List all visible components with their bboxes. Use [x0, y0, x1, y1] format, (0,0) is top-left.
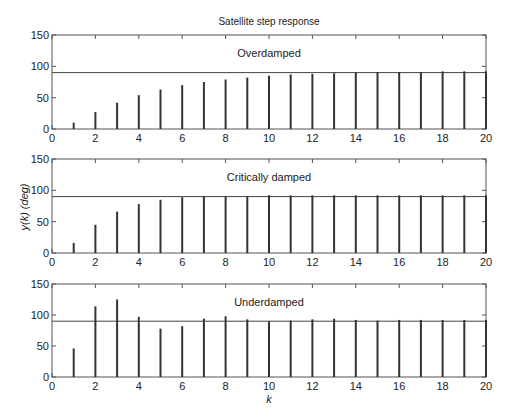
y-tick-label: 150: [31, 29, 49, 41]
x-tick-label: 10: [263, 380, 275, 392]
x-tick-label: 0: [49, 380, 55, 392]
x-tick-label: 16: [393, 380, 405, 392]
x-tick-label: 4: [136, 132, 142, 144]
y-tick-label: 100: [31, 309, 49, 321]
x-tick-label: 6: [179, 380, 185, 392]
x-tick-label: 18: [436, 132, 448, 144]
y-tick-label: 50: [37, 92, 49, 104]
x-tick-label: 6: [179, 256, 185, 268]
x-tick-label: 18: [436, 380, 448, 392]
x-tick-label: 10: [263, 256, 275, 268]
y-tick-label: 150: [31, 278, 49, 290]
panel-overdamped: 02468101214161820050100150Overdamped: [31, 29, 492, 144]
x-tick-label: 14: [350, 256, 362, 268]
y-tick-label: 100: [31, 184, 49, 196]
x-tick-label: 10: [263, 132, 275, 144]
x-tick-label: 12: [306, 132, 318, 144]
x-tick-label: 20: [480, 380, 492, 392]
panel-critically-damped: 02468101214161820050100150Critically dam…: [31, 153, 492, 268]
x-tick-label: 16: [393, 256, 405, 268]
x-tick-label: 12: [306, 256, 318, 268]
y-tick-label: 50: [37, 340, 49, 352]
x-tick-label: 8: [223, 256, 229, 268]
x-axis-label: k: [266, 393, 272, 405]
x-tick-label: 0: [49, 132, 55, 144]
y-tick-label: 100: [31, 60, 49, 72]
x-tick-label: 12: [306, 380, 318, 392]
x-tick-label: 0: [49, 256, 55, 268]
x-tick-label: 2: [92, 256, 98, 268]
x-tick-label: 4: [136, 256, 142, 268]
x-tick-label: 20: [480, 132, 492, 144]
chart-title: Satellite step response: [218, 16, 320, 27]
x-tick-label: 18: [436, 256, 448, 268]
panel-underdamped: 02468101214161820050100150Underdamped: [31, 278, 492, 392]
x-tick-label: 2: [92, 380, 98, 392]
panel-subtitle: Underdamped: [234, 296, 304, 308]
x-tick-label: 4: [136, 380, 142, 392]
x-tick-label: 8: [223, 380, 229, 392]
panel-subtitle: Critically damped: [227, 171, 311, 183]
y-tick-label: 0: [43, 371, 49, 383]
y-tick-label: 150: [31, 153, 49, 165]
x-tick-label: 14: [350, 380, 362, 392]
y-tick-label: 0: [43, 123, 49, 135]
x-tick-label: 14: [350, 132, 362, 144]
x-tick-label: 20: [480, 256, 492, 268]
x-tick-label: 2: [92, 132, 98, 144]
panel-subtitle: Overdamped: [237, 47, 301, 59]
y-tick-label: 50: [37, 216, 49, 228]
x-tick-label: 6: [179, 132, 185, 144]
y-tick-label: 0: [43, 247, 49, 259]
y-axis-label: y(k) (deg): [18, 183, 30, 231]
step-response-figure: Satellite step response y(k) (deg) k 024…: [0, 0, 511, 418]
x-tick-label: 8: [223, 132, 229, 144]
x-tick-label: 16: [393, 132, 405, 144]
